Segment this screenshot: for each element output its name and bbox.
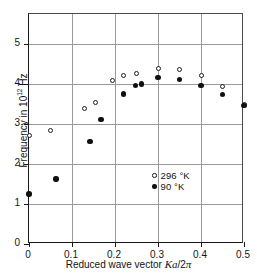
gridline-vertical (72, 14, 73, 242)
data-point (121, 73, 126, 78)
x-axis-title-prefix: Reduced wave vector (66, 259, 165, 270)
legend-label-90k: 90 °K (161, 181, 185, 192)
plot-area (28, 13, 243, 243)
legend-label-296k: 296 °K (161, 170, 190, 181)
open-circle-marker-icon (152, 173, 157, 178)
legend: 296 °K 90 °K (152, 170, 190, 192)
gridline-vertical (115, 14, 116, 242)
data-point (93, 100, 98, 105)
x-axis-tick (72, 242, 73, 247)
data-point (98, 117, 103, 122)
data-point (156, 66, 161, 71)
data-point (87, 139, 92, 144)
data-point (199, 73, 204, 78)
x-axis-title-pi: π (186, 258, 192, 270)
y-axis-tick-label: 1 (0, 198, 20, 208)
x-axis-tick (201, 242, 202, 247)
data-point (220, 92, 225, 97)
x-axis-tick (158, 242, 159, 247)
data-point (110, 78, 115, 83)
x-axis-title-symbol: Ka (165, 258, 178, 270)
y-axis-tick (24, 204, 29, 205)
data-point (134, 71, 139, 76)
x-axis-title: Reduced wave vector Ka/2π (0, 259, 257, 270)
gridline-vertical (158, 14, 159, 242)
data-point (53, 176, 58, 181)
gridline-horizontal (29, 204, 242, 205)
filled-circle-marker-icon (152, 184, 157, 189)
chart-figure: 012345 00.10.20.30.40.5 Frequency in 101… (0, 0, 257, 276)
y-axis-title-suffix: Hz (18, 74, 29, 89)
data-point (121, 91, 126, 96)
y-axis-title-prefix: Frequency in 10 (18, 96, 29, 168)
data-point (48, 128, 53, 133)
data-point (133, 83, 138, 88)
legend-entry-296k: 296 °K (152, 170, 190, 181)
gridline-horizontal (29, 124, 242, 125)
x-axis-title-slash: /2 (177, 259, 185, 270)
x-axis-tick (115, 242, 116, 247)
gridline-horizontal (29, 164, 242, 165)
data-point (155, 75, 160, 80)
y-axis-tick-label: 0 (0, 238, 20, 248)
data-point (177, 67, 182, 72)
x-axis-tick (29, 242, 30, 247)
data-point (241, 103, 246, 108)
gridline-vertical (201, 14, 202, 242)
x-axis-tick (244, 242, 245, 247)
legend-entry-90k: 90 °K (152, 181, 190, 192)
data-point (220, 84, 225, 89)
data-point (82, 106, 87, 111)
data-point (177, 77, 182, 82)
y-axis-title: Frequency in 1012 Hz (18, 46, 29, 196)
y-axis-title-exponent: 12 (16, 89, 23, 96)
gridline-horizontal (29, 44, 242, 45)
data-point (139, 81, 144, 86)
data-point (198, 83, 203, 88)
